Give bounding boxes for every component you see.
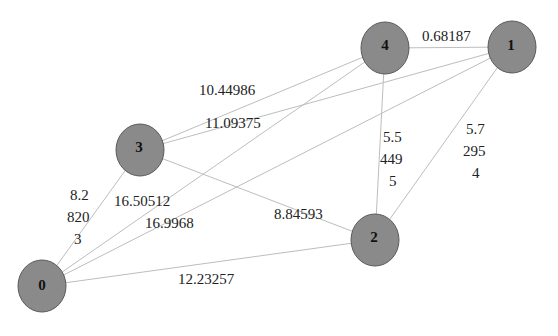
node-2-label: 2 bbox=[370, 229, 378, 245]
node-2[interactable]: 2 bbox=[351, 214, 399, 266]
node-0-label: 0 bbox=[38, 277, 46, 293]
edge-label-4-2-line3: 5 bbox=[389, 173, 397, 189]
edge-label-3-2: 8.84593 bbox=[274, 206, 323, 222]
node-3-label: 3 bbox=[135, 139, 143, 155]
edge-label-4-1: 0.68187 bbox=[422, 28, 471, 44]
edge-label-4-2-line2: 449 bbox=[380, 151, 403, 167]
edge-label-1-2-line1: 5.7 bbox=[466, 121, 485, 137]
edge-3-1 bbox=[140, 47, 512, 150]
node-1[interactable]: 1 bbox=[488, 21, 536, 73]
edge-label-0-4: 16.50512 bbox=[114, 193, 170, 209]
edge-label-0-3-line1: 8.2 bbox=[70, 187, 89, 203]
edge-label-4-2: 5.5 449 5 bbox=[380, 129, 406, 189]
node-1-label: 1 bbox=[507, 37, 515, 53]
node-0[interactable]: 0 bbox=[18, 260, 66, 312]
edge-label-3-1: 11.09375 bbox=[205, 115, 261, 131]
edge-label-0-1: 16.9968 bbox=[145, 215, 194, 231]
edge-label-1-2: 5.7 295 4 bbox=[463, 121, 489, 181]
node-4[interactable]: 4 bbox=[361, 22, 409, 74]
edge-label-3-4: 10.44986 bbox=[199, 82, 256, 98]
edge-label-0-3-line2: 820 bbox=[67, 209, 90, 225]
edge-label-0-2: 12.23257 bbox=[178, 271, 235, 287]
edge-label-1-2-line2: 295 bbox=[463, 143, 486, 159]
edge-3-4 bbox=[140, 48, 385, 150]
node-4-label: 4 bbox=[381, 37, 389, 53]
edge-label-0-3: 8.2 820 3 bbox=[67, 187, 93, 247]
graph-canvas: 0.68187 10.44986 11.09375 8.2 820 3 16.5… bbox=[0, 0, 558, 336]
node-3[interactable]: 3 bbox=[116, 124, 164, 176]
edge-label-0-3-line3: 3 bbox=[74, 231, 82, 247]
edge-0-1 bbox=[42, 47, 512, 286]
edge-label-4-2-line1: 5.5 bbox=[383, 129, 402, 145]
edge-label-1-2-line3: 4 bbox=[472, 165, 480, 181]
